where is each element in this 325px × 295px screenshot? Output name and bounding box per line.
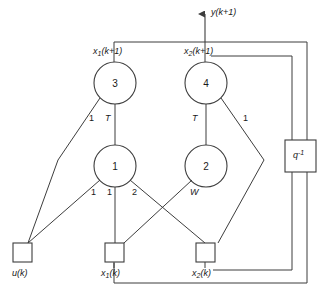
input-label-x2: x2(k) <box>192 269 211 278</box>
input-label-x2-sub: 2 <box>197 272 201 279</box>
input-label-x1-tail: (k) <box>109 268 120 278</box>
weight-n1-from-x2: 2 <box>132 188 137 197</box>
weight-n4-from-n2: T <box>192 114 198 123</box>
state-label-x2-next: x2(k+1) <box>184 47 213 56</box>
input-label-x1-sub: 1 <box>106 272 110 279</box>
input-square-x2 <box>196 243 215 268</box>
weight-n3-from-n1: T <box>105 114 111 123</box>
edge-u-n1 <box>28 180 100 243</box>
x2-next-to-delay-wire <box>211 56 292 140</box>
neuron-3-label: 3 <box>105 79 125 89</box>
state-label-x1-next-tail: (k+1) <box>101 46 122 56</box>
state-label-x2-next-tail: (k+1) <box>192 46 213 56</box>
block-diagram: y(k+1) x1(k+1) x2(k+1) 3 4 1 2 1 T T 1 1… <box>0 0 325 295</box>
neuron-1-label: 1 <box>105 162 125 172</box>
neuron-2-label: 2 <box>196 162 216 172</box>
input-square-x1 <box>105 243 124 268</box>
input-label-x1-base: x <box>101 268 106 278</box>
input-label-x2-tail: (k) <box>200 268 211 278</box>
state-label-x1-next-base: x <box>93 46 98 56</box>
diagram-canvas <box>0 0 325 295</box>
input-square-u <box>13 243 32 262</box>
neuron-4-label: 4 <box>196 79 216 89</box>
delay-block-label-exp: -1 <box>298 149 304 156</box>
weight-n2-from-x1: W <box>190 188 199 197</box>
state-label-x2-next-sub: 2 <box>189 50 193 57</box>
state-label-x1-next-sub: 1 <box>98 50 102 57</box>
input-label-x2-base: x <box>192 268 197 278</box>
input-label-u: u(k) <box>12 269 28 278</box>
output-label: y(k+1) <box>211 8 236 17</box>
weight-n1-from-u: 1 <box>91 188 96 197</box>
weight-n4-from-x2: 1 <box>243 114 248 123</box>
state-label-x2-next-base: x <box>184 46 189 56</box>
weight-n3-from-u: 1 <box>89 114 94 123</box>
delay-output-wire <box>213 172 292 270</box>
delay-block-label: q-1 <box>293 151 304 160</box>
weight-n1-from-x1: 1 <box>107 188 112 197</box>
state-label-x1-next: x1(k+1) <box>93 47 122 56</box>
input-label-u-tail: (k) <box>17 268 28 278</box>
input-label-x1: x1(k) <box>101 269 120 278</box>
